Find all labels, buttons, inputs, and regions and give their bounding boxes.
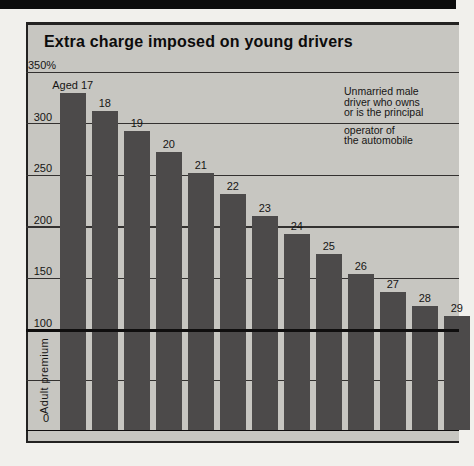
- bar-18: [92, 111, 118, 430]
- annotation-paragraph-1: Unmarried male driver who owns or is the…: [344, 86, 462, 118]
- bar-27: [380, 292, 406, 430]
- gridline-350: [26, 72, 459, 73]
- y-tick-label-200: 200: [26, 214, 52, 226]
- y-axis-max-label: 350%: [28, 59, 56, 71]
- y-tick-label-250: 250: [26, 162, 52, 174]
- bar-23: [252, 216, 278, 430]
- chart-plot-area: Extra charge imposed on young drivers 35…: [26, 22, 459, 443]
- bar-25: [316, 254, 342, 430]
- bar-label-19: 19: [107, 117, 167, 129]
- bar-29: [444, 316, 470, 430]
- bar-24: [284, 234, 310, 430]
- bar-28: [412, 306, 438, 430]
- bar-19: [124, 131, 150, 430]
- bar-label-27: 27: [363, 278, 423, 290]
- bar-label-aged-17: Aged 17: [43, 79, 103, 91]
- gridline-0: [26, 430, 459, 432]
- bar-label-22: 22: [203, 180, 263, 192]
- bar-label-20: 20: [139, 138, 199, 150]
- bar-aged-17: [60, 93, 86, 430]
- page-top-rule: [0, 0, 456, 9]
- bar-label-29: 29: [427, 302, 474, 314]
- bar-21: [188, 173, 214, 430]
- gridline-250: [26, 175, 459, 176]
- y-tick-label-150: 150: [26, 265, 52, 277]
- bar-label-24: 24: [267, 220, 327, 232]
- bar-label-26: 26: [331, 260, 391, 272]
- chart-title: Extra charge imposed on young drivers: [44, 33, 353, 51]
- bar-26: [348, 274, 374, 430]
- bar-20: [156, 152, 182, 430]
- bar-label-21: 21: [171, 159, 231, 171]
- adult-premium-region-label: Adult premium: [38, 326, 52, 426]
- bar-label-23: 23: [235, 202, 295, 214]
- y-tick-label-300: 300: [26, 111, 52, 123]
- bar-22: [220, 194, 246, 430]
- annotation-note: Unmarried male driver who owns or is the…: [344, 86, 462, 146]
- bar-label-25: 25: [299, 240, 359, 252]
- bar-label-18: 18: [75, 97, 135, 109]
- annotation-paragraph-2: operator of the automobile: [344, 125, 462, 146]
- gridline-100-adult-premium-baseline: [26, 329, 459, 333]
